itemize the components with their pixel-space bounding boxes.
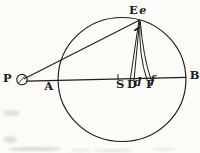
point-label-A: A xyxy=(44,81,53,93)
point-P-marker-tick xyxy=(19,76,25,82)
line-PE xyxy=(24,20,139,79)
figure-canvas: PASDdFfBEe xyxy=(0,0,200,153)
arc-ef xyxy=(140,22,151,80)
point-label-f: f xyxy=(150,75,155,86)
point-label-E: E xyxy=(129,5,138,17)
point-label-e: e xyxy=(139,5,146,16)
geometry-svg xyxy=(0,0,200,153)
point-label-S: S xyxy=(116,79,124,91)
point-label-d: d xyxy=(134,77,142,88)
point-label-B: B xyxy=(190,70,200,82)
point-label-P: P xyxy=(3,73,12,85)
